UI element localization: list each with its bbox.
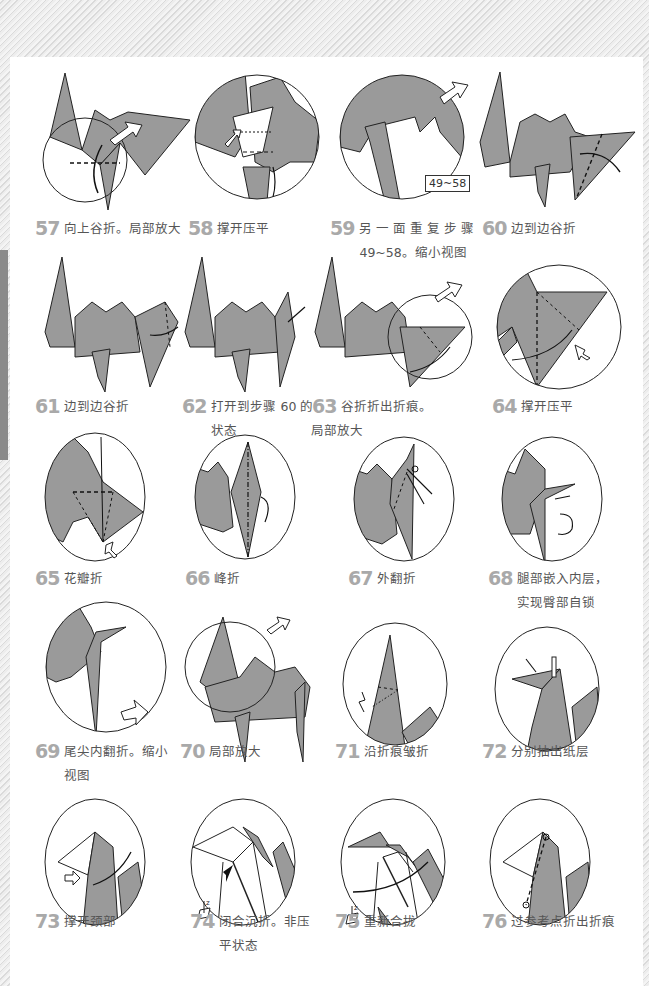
step-number: 70 bbox=[180, 740, 204, 762]
step-number: 75 bbox=[335, 910, 359, 932]
step-text: 撑开颈部 bbox=[64, 910, 116, 934]
caption-step-65: 65 花瓣折 bbox=[35, 567, 103, 591]
step-text-line1: 闭合沉折。非压 bbox=[219, 914, 310, 929]
step-text: 腿部嵌入内层， 实现臀部自锁 bbox=[517, 567, 608, 615]
caption-step-72: 72 分别抽出纸层 bbox=[482, 740, 589, 764]
step-number: 68 bbox=[488, 567, 512, 589]
step-text: 尾尖内翻折。缩小 视图 bbox=[64, 740, 168, 788]
diagram-step-57 bbox=[40, 65, 190, 210]
diagram-step-69 bbox=[46, 602, 181, 737]
step-text: 边到边谷折 bbox=[511, 217, 576, 241]
diagram-step-72 bbox=[492, 627, 602, 752]
diagram-step-75: z bbox=[338, 797, 448, 927]
step-text: 撑开压平 bbox=[217, 217, 269, 241]
caption-step-67: 67 外翻折 bbox=[348, 567, 416, 591]
step-text-line2: 实现臀部自锁 bbox=[517, 591, 608, 615]
caption-step-70: 70 局部放大 bbox=[180, 740, 261, 764]
step-text-line1: 腿部嵌入内层， bbox=[517, 571, 608, 586]
step-text-line1: 打开到步骤 60 的 bbox=[211, 399, 313, 414]
caption-step-69: 69 尾尖内翻折。缩小 视图 bbox=[35, 740, 168, 788]
diagram-step-58 bbox=[195, 72, 320, 202]
diagram-step-65 bbox=[43, 432, 148, 562]
step-text-line2: 平状态 bbox=[219, 934, 310, 958]
step-number: 64 bbox=[492, 395, 516, 417]
diagram-step-76 bbox=[488, 797, 593, 927]
step-number: 63 bbox=[312, 395, 336, 417]
caption-step-74: 74 闭合沉折。非压 平状态 bbox=[190, 910, 310, 958]
hollow-push-arrow-icon bbox=[267, 617, 290, 634]
step-text: 过参考点折出折痕 bbox=[511, 910, 615, 934]
svg-text:z: z bbox=[206, 899, 210, 907]
step-number: 69 bbox=[35, 740, 59, 762]
caption-step-73: 73 撑开颈部 bbox=[35, 910, 116, 934]
diagram-step-61 bbox=[40, 257, 180, 392]
caption-step-58: 58 撑开压平 bbox=[188, 217, 269, 241]
step-number: 65 bbox=[35, 567, 59, 589]
step-number: 61 bbox=[35, 395, 59, 417]
step-number: 76 bbox=[482, 910, 506, 932]
diagram-step-59: 49~58 bbox=[340, 72, 470, 202]
step-number: 74 bbox=[190, 910, 214, 932]
step-number: 66 bbox=[185, 567, 209, 589]
chapter-edge-tab bbox=[0, 250, 8, 460]
instruction-page: 57 向上谷折。局部放大 58 撑开压平 bbox=[10, 57, 643, 986]
step-number: 67 bbox=[348, 567, 372, 589]
step-text: 分别抽出纸层 bbox=[511, 740, 589, 764]
diagram-step-66 bbox=[193, 432, 298, 562]
caption-step-60: 60 边到边谷折 bbox=[482, 217, 576, 241]
step-number: 62 bbox=[182, 395, 206, 417]
step-text: 峰折 bbox=[214, 567, 240, 591]
step-text-line1: 尾尖内翻折。缩小 bbox=[64, 744, 168, 759]
caption-step-71: 71 沿折痕皱折 bbox=[335, 740, 429, 764]
step-text: 沿折痕皱折 bbox=[364, 740, 429, 764]
diagram-step-68 bbox=[500, 434, 605, 564]
caption-step-75: 75 重新合拢 bbox=[335, 910, 416, 934]
diagram-step-60 bbox=[480, 72, 640, 207]
step-text: 外翻折 bbox=[377, 567, 416, 591]
diagram-step-71 bbox=[340, 622, 450, 747]
caption-step-66: 66 峰折 bbox=[185, 567, 240, 591]
step-number: 71 bbox=[335, 740, 359, 762]
step-text-line1: 谷折折出折痕。 bbox=[341, 399, 432, 414]
step-text: 重新合拢 bbox=[364, 910, 416, 934]
step-number: 58 bbox=[188, 217, 212, 239]
step-text: 撑开压平 bbox=[521, 395, 573, 419]
step-text-line2: 视图 bbox=[64, 764, 168, 788]
caption-step-68: 68 腿部嵌入内层， 实现臀部自锁 bbox=[488, 567, 608, 615]
step-text: 局部放大 bbox=[209, 740, 261, 764]
step-number: 72 bbox=[482, 740, 506, 762]
diagram-step-63 bbox=[310, 257, 470, 392]
caption-step-57: 57 向上谷折。局部放大 bbox=[35, 217, 181, 241]
diagram-step-73 bbox=[43, 797, 148, 927]
step-number: 60 bbox=[482, 217, 506, 239]
step-number: 59 bbox=[330, 217, 354, 239]
step-text: 向上谷折。局部放大 bbox=[64, 217, 181, 241]
diagram-step-67 bbox=[352, 434, 457, 564]
diagram-step-74: z bbox=[188, 797, 298, 927]
diagram-step-64 bbox=[497, 262, 622, 392]
diagram-step-62 bbox=[180, 257, 310, 392]
step-number: 57 bbox=[35, 217, 59, 239]
step-number: 73 bbox=[35, 910, 59, 932]
caption-step-64: 64 撑开压平 bbox=[492, 395, 573, 419]
step-reference-label: 49~58 bbox=[425, 175, 470, 192]
step-text-line1: 另 一 面 重 复 步 骤 bbox=[359, 221, 474, 236]
step-text: 边到边谷折 bbox=[64, 395, 129, 419]
step-text: 花瓣折 bbox=[64, 567, 103, 591]
caption-step-76: 76 过参考点折出折痕 bbox=[482, 910, 615, 934]
caption-step-61: 61 边到边谷折 bbox=[35, 395, 129, 419]
step-text: 闭合沉折。非压 平状态 bbox=[219, 910, 310, 958]
